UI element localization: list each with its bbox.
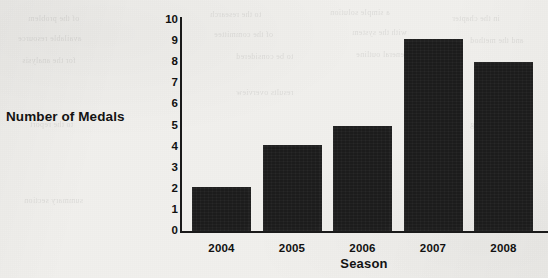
x-tick-label: 2006 <box>333 242 392 254</box>
y-axis-line <box>180 17 182 233</box>
x-tick-label: 2005 <box>263 242 322 254</box>
x-tick-label: 2007 <box>404 242 463 254</box>
x-tick-label: 2004 <box>192 242 251 254</box>
bar <box>333 126 392 232</box>
y-tick-label: 8 <box>156 56 178 67</box>
y-tick-label: 6 <box>156 98 178 109</box>
y-tick-label: 0 <box>156 225 178 236</box>
bar <box>404 39 463 231</box>
y-axis-title: Number of Medals <box>6 109 156 124</box>
x-axis-title: Season <box>180 256 548 271</box>
x-axis-line <box>180 231 548 233</box>
bar <box>263 145 322 232</box>
bar-chart: Number of Medals 109876543210 2004200520… <box>0 0 548 278</box>
y-tick-label: 7 <box>156 77 178 88</box>
bar <box>192 187 251 231</box>
y-tick-label: 4 <box>156 141 178 152</box>
y-tick-label: 1 <box>156 204 178 215</box>
x-tick-label: 2008 <box>474 242 533 254</box>
y-tick-label: 2 <box>156 183 178 194</box>
plot-area: 109876543210 20042005200620072008 <box>180 14 548 234</box>
y-tick-label: 9 <box>156 35 178 46</box>
y-tick-label: 3 <box>156 162 178 173</box>
y-tick-label: 5 <box>156 120 178 131</box>
bar <box>474 62 533 231</box>
y-tick-label: 10 <box>156 14 178 25</box>
